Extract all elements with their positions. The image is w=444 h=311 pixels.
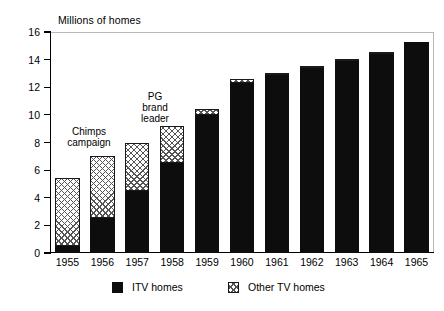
bar-group <box>160 32 184 253</box>
legend-label-other-tv-homes: Other TV homes <box>248 281 325 293</box>
x-axis-label: 1957 <box>120 256 155 268</box>
annotation-chimps-campaign: Chimps campaign <box>58 126 120 148</box>
bar-group <box>230 32 254 253</box>
bar-group <box>125 32 149 253</box>
bar-segment-other-tv-homes <box>125 143 149 191</box>
bar-group <box>265 32 289 253</box>
x-axis-label: 1961 <box>259 256 294 268</box>
bar-segment-itv-homes <box>335 61 359 253</box>
bar-group <box>300 32 324 253</box>
annotation-pg-brand-leader: PG brand leader <box>133 91 177 125</box>
legend-item-other-tv-homes: Other TV homes <box>228 281 325 293</box>
x-axis-label: 1964 <box>364 256 399 268</box>
y-axis-label: 6 <box>0 164 40 176</box>
y-axis-label: 16 <box>0 26 40 38</box>
legend-swatch-checkered-icon <box>228 282 239 293</box>
bar-segment-other-tv-homes <box>160 126 184 163</box>
x-axis-label: 1955 <box>50 256 85 268</box>
y-axis-label: 4 <box>0 192 40 204</box>
bar-group <box>404 32 428 253</box>
bar-chart: Millions of homes 0246810121416 19551956… <box>0 0 444 311</box>
x-axis-label: 1958 <box>155 256 190 268</box>
bar-segment-itv-homes <box>90 218 114 253</box>
x-axis-label: 1959 <box>190 256 225 268</box>
x-axis-label: 1962 <box>294 256 329 268</box>
bar-segment-itv-homes <box>369 54 393 253</box>
chart-legend: ITV homes Other TV homes <box>0 281 444 301</box>
bar-segment-other-tv-homes <box>300 66 324 68</box>
y-axis-label: 2 <box>0 219 40 231</box>
bar-segment-other-tv-homes <box>90 156 114 218</box>
legend-label-itv-homes: ITV homes <box>132 281 183 293</box>
chart-axis-title: Millions of homes <box>58 14 141 26</box>
bar-group <box>369 32 393 253</box>
bar-segment-other-tv-homes <box>369 52 393 54</box>
legend-item-itv-homes: ITV homes <box>112 281 183 293</box>
bar-segment-itv-homes <box>160 163 184 253</box>
x-axis-label: 1965 <box>399 256 434 268</box>
y-axis-label: 14 <box>0 54 40 66</box>
bar-segment-itv-homes <box>404 42 428 253</box>
bar-segment-other-tv-homes <box>335 59 359 61</box>
x-axis-label: 1963 <box>329 256 364 268</box>
bar-segment-other-tv-homes <box>195 109 219 115</box>
legend-swatch-solid-icon <box>112 282 123 293</box>
y-axis-label: 12 <box>0 81 40 93</box>
bar-segment-other-tv-homes <box>230 79 254 83</box>
bar-segment-itv-homes <box>230 83 254 253</box>
bar-segment-itv-homes <box>195 115 219 253</box>
bar-segment-itv-homes <box>55 246 79 253</box>
bar-segment-other-tv-homes <box>55 178 79 246</box>
bar-group <box>335 32 359 253</box>
bar-segment-itv-homes <box>125 191 149 253</box>
x-axis-label: 1956 <box>85 256 120 268</box>
bar-segment-itv-homes <box>265 75 289 253</box>
y-axis-label: 10 <box>0 109 40 121</box>
bar-segment-other-tv-homes <box>265 73 289 75</box>
x-axis-label: 1960 <box>225 256 260 268</box>
y-axis-label: 0 <box>0 247 40 259</box>
bar-group <box>195 32 219 253</box>
y-axis-label: 8 <box>0 137 40 149</box>
bar-segment-itv-homes <box>300 68 324 253</box>
